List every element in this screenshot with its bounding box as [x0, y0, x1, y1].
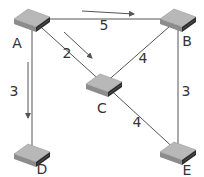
edge-weight-A-C: 2 [63, 45, 72, 61]
edge-weight-C-B: 4 [139, 50, 148, 66]
edge-weight-A-D: 3 [10, 83, 19, 99]
node-label-C: C [97, 100, 107, 116]
node-label-B: B [182, 33, 192, 49]
node-A[interactable] [14, 9, 50, 32]
edge-weight-C-E: 4 [133, 114, 142, 130]
network-diagram: 523443ABCDE [0, 0, 204, 177]
node-C[interactable] [86, 74, 122, 97]
edge-weight-A-B: 5 [100, 17, 109, 33]
network-switch-icon [160, 9, 196, 32]
node-B[interactable] [160, 9, 196, 32]
network-switch-icon [86, 74, 122, 97]
node-label-A: A [12, 35, 22, 51]
direction-arrow-A-B [82, 11, 134, 14]
network-switch-icon [14, 9, 50, 32]
edge-weight-B-E: 3 [182, 83, 191, 99]
node-label-E: E [183, 162, 192, 177]
node-label-D: D [37, 161, 48, 177]
